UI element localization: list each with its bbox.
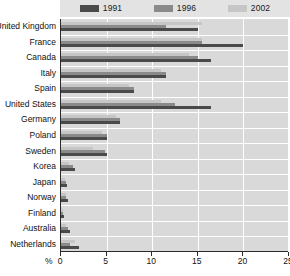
x-axis-tick-label: 25	[283, 257, 290, 266]
bar-1991	[61, 59, 211, 62]
legend-swatch-1996	[154, 5, 173, 12]
bar-1991	[61, 90, 134, 93]
x-axis-tick-label: 10	[146, 257, 155, 266]
bar-group	[61, 221, 288, 237]
y-axis-label: Spain	[34, 84, 56, 93]
bar-group	[61, 128, 288, 144]
y-axis-label: Finland	[28, 209, 56, 218]
bar-1991	[61, 75, 166, 78]
y-axis-label: Australia	[23, 224, 56, 233]
bar-1991	[61, 215, 64, 218]
y-axis-label: Korea	[33, 162, 56, 171]
bar-1991	[61, 28, 198, 31]
gridline	[289, 19, 290, 251]
y-axis-label: Germany	[21, 115, 56, 124]
bar-1991	[61, 44, 243, 47]
legend-label-2002: 2002	[251, 4, 270, 13]
y-axis-label: Netherlands	[10, 240, 56, 249]
bar-group	[61, 81, 288, 97]
legend-item-1996: 1996	[154, 4, 196, 13]
bar-group	[61, 159, 288, 175]
x-axis-unit: %	[45, 257, 53, 266]
bar-1991	[61, 153, 107, 156]
bar-group	[61, 236, 288, 252]
x-axis-tick-label: 20	[238, 257, 247, 266]
bar-group	[61, 19, 288, 35]
bar-group	[61, 35, 288, 51]
legend-swatch-1991	[80, 5, 99, 12]
bar-group	[61, 112, 288, 128]
bar-chart: 1991 1996 2002 United KingdomFranceCanad…	[0, 0, 290, 276]
bar-1991	[61, 168, 75, 171]
y-axis-label: Poland	[30, 131, 56, 140]
bar-group	[61, 190, 288, 206]
bar-1991	[61, 121, 120, 124]
legend-item-2002: 2002	[228, 4, 270, 13]
y-axis-labels: United KingdomFranceCanadaItalySpainUnit…	[0, 19, 58, 252]
y-axis-label: France	[30, 38, 56, 47]
legend-item-1991: 1991	[80, 4, 122, 13]
bar-group	[61, 174, 288, 190]
x-axis-tick-label: 5	[103, 257, 108, 266]
plot-area	[60, 19, 288, 252]
bar-rows	[61, 19, 288, 251]
bar-1991	[61, 106, 211, 109]
y-axis-label: Japan	[33, 178, 56, 187]
bar-1991	[61, 137, 107, 140]
bar-group	[61, 66, 288, 82]
chart-legend: 1991 1996 2002	[60, 0, 290, 17]
bar-group	[61, 97, 288, 113]
bar-1991	[61, 246, 79, 249]
legend-swatch-2002	[228, 5, 247, 12]
y-axis-label: United States	[5, 100, 56, 109]
bar-group	[61, 205, 288, 221]
bar-1991	[61, 184, 67, 187]
bar-group	[61, 143, 288, 159]
legend-label-1991: 1991	[103, 4, 122, 13]
y-axis-label: United Kingdom	[0, 22, 56, 31]
bar-group	[61, 50, 288, 66]
legend-label-1996: 1996	[177, 4, 196, 13]
y-axis-label: Italy	[40, 69, 56, 78]
bar-1991	[61, 199, 68, 202]
x-axis-tick-label: 15	[192, 257, 201, 266]
y-axis-label: Canada	[26, 53, 56, 62]
y-axis-label: Norway	[27, 193, 56, 202]
y-axis-label: Sweden	[25, 147, 56, 156]
x-axis-tick-label: 0	[58, 257, 63, 266]
x-axis: 0510152025	[60, 252, 288, 276]
bar-1991	[61, 230, 70, 233]
